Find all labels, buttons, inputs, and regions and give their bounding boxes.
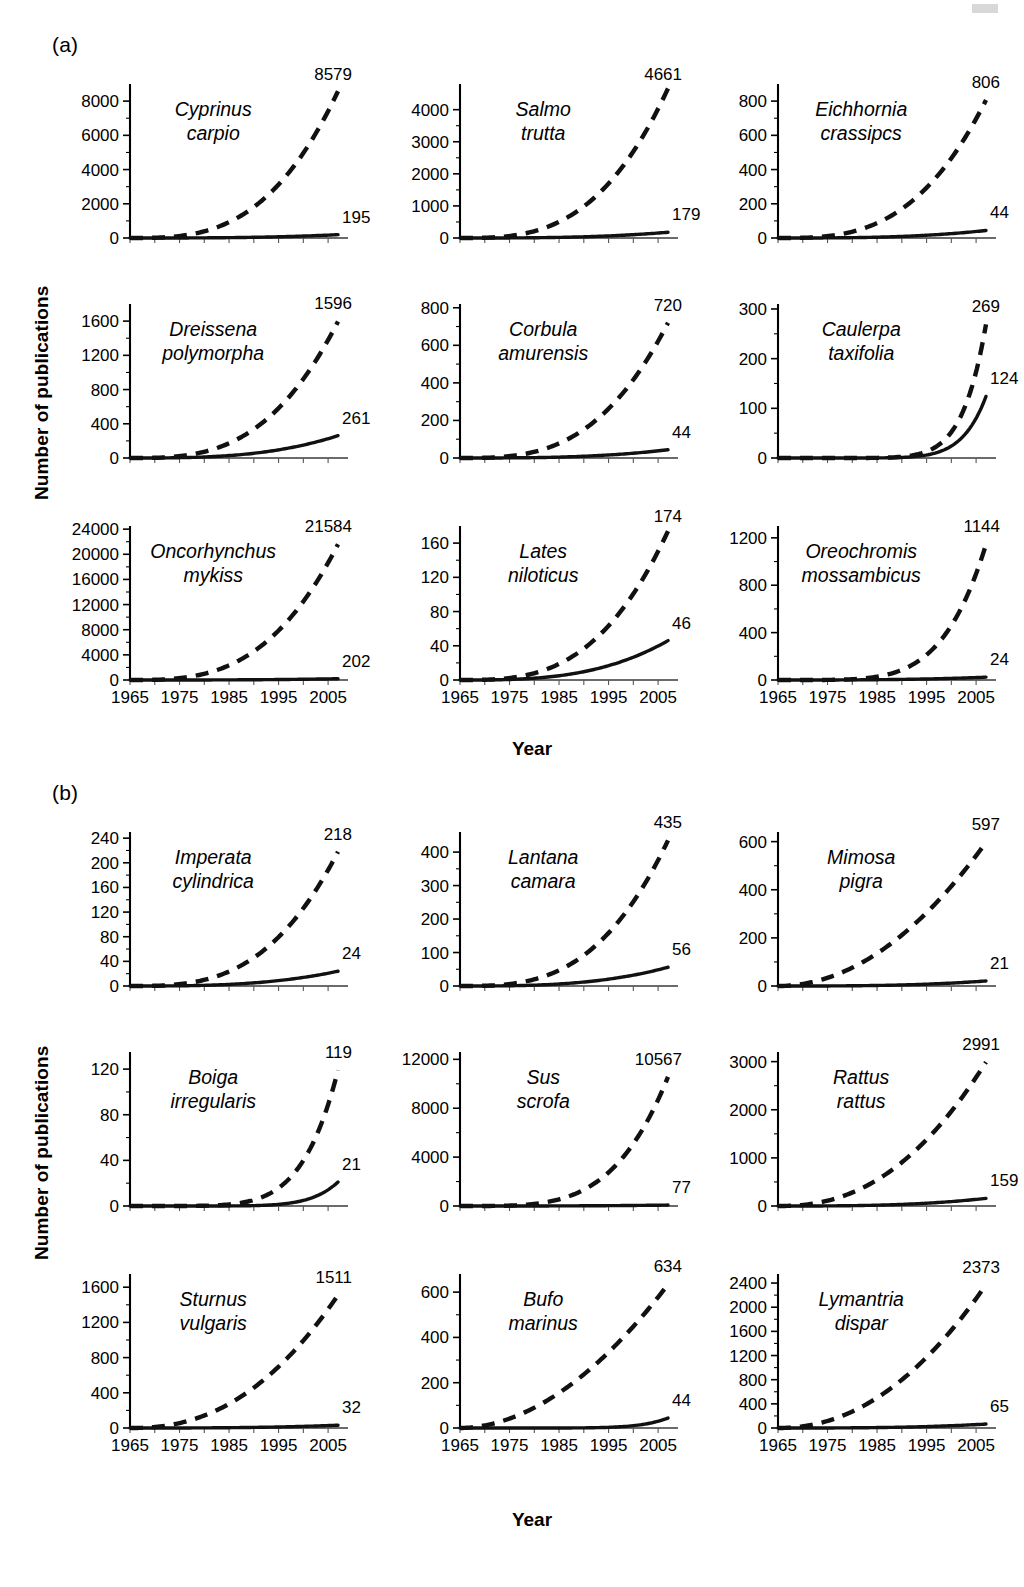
series-end-label: 24 [990, 650, 1009, 669]
species-name-line: amurensis [498, 342, 588, 364]
species-panel-eichhornia-crassipcs: 0200400600800Eichhorniacrassipcs80644 [686, 62, 1016, 280]
species-name-line: polymorpha [161, 342, 264, 364]
publications-figure: (a) 02000400060008000Cyprinuscarpio85791… [0, 0, 1024, 1587]
species-name-line: Lymantria [819, 1288, 904, 1310]
species-name-line: Corbula [509, 318, 577, 340]
x-tick-label: 1995 [908, 688, 946, 707]
y-tick-label: 800 [421, 299, 449, 318]
y-tick-label: 400 [91, 1384, 119, 1403]
y-tick-label: 80 [100, 928, 119, 947]
x-axis-label-b: Year [432, 1509, 632, 1531]
species-name-line: Oncorhynchus [150, 540, 276, 562]
species-name-line: irregularis [170, 1090, 256, 1112]
y-tick-label: 800 [91, 381, 119, 400]
species-panel-lantana-camara: 0100200300400Lantanacamara43556 [368, 810, 698, 1028]
species-chart: 0400800120016002000240019651975198519952… [686, 1252, 1016, 1470]
species-name-line: pigra [839, 870, 884, 892]
y-tick-label: 1600 [81, 1278, 119, 1297]
x-tick-label: 2005 [639, 688, 677, 707]
y-tick-label: 2000 [729, 1298, 767, 1317]
y-tick-label: 40 [430, 637, 449, 656]
y-tick-label: 120 [421, 568, 449, 587]
panel-group-b: (b) 04080120160200240Imperatacylindrica2… [0, 782, 1024, 1522]
y-tick-label: 600 [739, 126, 767, 145]
series-end-label: 720 [654, 296, 682, 315]
y-tick-label: 8000 [411, 1099, 449, 1118]
y-tick-label: 400 [739, 881, 767, 900]
series-end-label: 1144 [963, 517, 1000, 536]
species-name-line: Bufo [523, 1288, 563, 1310]
series-end-label: 2373 [962, 1258, 1000, 1277]
series-end-label: 8579 [314, 65, 352, 84]
y-tick-label: 400 [421, 374, 449, 393]
y-axis-label-b: Number of publications [31, 1046, 53, 1260]
y-tick-label: 800 [739, 1371, 767, 1390]
species-panel-sus-scrofa: 04000800012000Susscrofa1056777 [368, 1030, 698, 1248]
x-tick-label: 1985 [858, 688, 896, 707]
series-end-label: 174 [654, 507, 682, 526]
species-name-line: rattus [837, 1090, 886, 1112]
y-tick-label: 400 [739, 1395, 767, 1414]
species-name-line: crassipcs [821, 122, 903, 144]
y-tick-label: 160 [421, 534, 449, 553]
species-chart: 04000800012000Susscrofa1056777 [368, 1030, 698, 1248]
x-axis-label-a: Year [432, 738, 632, 760]
series-end-label: 65 [990, 1397, 1009, 1416]
species-name-line: Mimosa [827, 846, 895, 868]
panel-group-a: (a) 02000400060008000Cyprinuscarpio85791… [0, 34, 1024, 764]
series-end-label: 10567 [635, 1050, 682, 1069]
species-name-line: carpio [187, 122, 240, 144]
y-tick-label: 300 [739, 300, 767, 319]
y-tick-label: 160 [91, 878, 119, 897]
invasion-publications-curve [460, 450, 668, 458]
species-chart: 0100200300400Lantanacamara43556 [368, 810, 698, 1028]
page-corner-mark [972, 4, 998, 13]
x-tick-label: 1975 [809, 688, 847, 707]
series-end-label: 44 [990, 203, 1009, 222]
y-tick-label: 3000 [411, 133, 449, 152]
invasion-publications-curve [778, 677, 986, 680]
invasion-publications-curve [778, 230, 986, 238]
x-tick-label: 2005 [309, 688, 347, 707]
species-panel-bufo-marinus: 020040060019651975198519952005Bufomarinu… [368, 1252, 698, 1470]
y-tick-label: 200 [739, 350, 767, 369]
species-name-line: Lates [519, 540, 567, 562]
invasion-publications-curve [130, 1182, 338, 1206]
y-tick-label: 1000 [729, 1149, 767, 1168]
y-tick-label: 800 [91, 1349, 119, 1368]
x-tick-label: 2005 [957, 1436, 995, 1455]
x-tick-label: 1975 [809, 1436, 847, 1455]
y-tick-label: 1000 [411, 197, 449, 216]
species-chart: 020040060019651975198519952005Bufomarinu… [368, 1252, 698, 1470]
invasion-publications-curve [130, 235, 338, 238]
y-tick-label: 800 [739, 576, 767, 595]
series-end-label: 21 [990, 954, 1009, 973]
y-tick-label: 24000 [72, 520, 119, 539]
y-tick-label: 0 [440, 229, 449, 248]
species-name-line: niloticus [508, 564, 579, 586]
species-panel-lymantria-dispar: 0400800120016002000240019651975198519952… [686, 1252, 1016, 1470]
x-tick-label: 1975 [491, 688, 529, 707]
y-tick-label: 1600 [729, 1322, 767, 1341]
x-tick-label: 1985 [210, 1436, 248, 1455]
series-end-label: 435 [654, 813, 682, 832]
species-name-line: Dreissena [169, 318, 257, 340]
y-tick-label: 0 [440, 977, 449, 996]
species-chart: 0200400600Mimosapigra59721 [686, 810, 1016, 1028]
species-name-line: Imperata [175, 846, 252, 868]
x-tick-label: 2005 [957, 688, 995, 707]
species-name-line: Eichhornia [815, 98, 907, 120]
total-publications-curve [778, 100, 986, 238]
species-panel-oncorhynchus-mykiss: 0400080001200016000200002400019651975198… [38, 504, 368, 722]
y-tick-label: 0 [440, 449, 449, 468]
species-name-line: camara [511, 870, 576, 892]
species-name-line: vulgaris [180, 1312, 247, 1334]
y-tick-label: 200 [421, 910, 449, 929]
x-tick-label: 1995 [260, 688, 298, 707]
series-end-label: 195 [342, 208, 370, 227]
species-chart: 01000200030004000Salmotrutta4661179 [368, 62, 698, 280]
x-tick-label: 1975 [491, 1436, 529, 1455]
y-tick-label: 600 [739, 833, 767, 852]
species-name-line: Sturnus [180, 1288, 247, 1310]
species-panel-oreochromis-mossambicus: 0400800120019651975198519952005Oreochrom… [686, 504, 1016, 722]
